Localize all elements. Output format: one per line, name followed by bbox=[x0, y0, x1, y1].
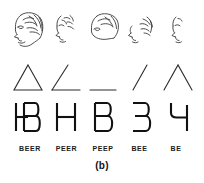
label-beer: BEER bbox=[12, 142, 48, 156]
shape-triangle bbox=[10, 60, 46, 94]
shape-caret bbox=[160, 60, 196, 94]
label-peep: PEEP bbox=[85, 142, 121, 156]
label-be: BE bbox=[158, 142, 194, 156]
face-drawing-5 bbox=[161, 7, 198, 51]
face-profiles-row bbox=[0, 6, 204, 52]
letter-form-b bbox=[87, 97, 123, 137]
shape-horizontal-line bbox=[85, 60, 121, 94]
word-labels-row: BEER PEER PEEP BEE BE bbox=[0, 142, 204, 156]
face-drawing-2 bbox=[48, 7, 85, 51]
label-peer: PEER bbox=[49, 142, 85, 156]
face-drawing-1 bbox=[10, 7, 48, 51]
face-drawing-3 bbox=[85, 7, 123, 51]
letter-form-h bbox=[49, 97, 85, 137]
figure-caption: (b) bbox=[0, 160, 204, 171]
letter-forms-row bbox=[0, 96, 204, 138]
shape-angle bbox=[48, 60, 84, 94]
face-drawing-4 bbox=[123, 7, 160, 51]
figure-panel-b: BEER PEER PEEP BEE BE (b) bbox=[0, 0, 204, 183]
letter-form-3 bbox=[124, 97, 160, 137]
shape-oblique-slash bbox=[123, 60, 159, 94]
label-bee: BEE bbox=[122, 142, 158, 156]
letter-form-hb bbox=[11, 97, 47, 137]
line-figures-row bbox=[0, 56, 204, 94]
letter-form-4 bbox=[162, 97, 198, 137]
